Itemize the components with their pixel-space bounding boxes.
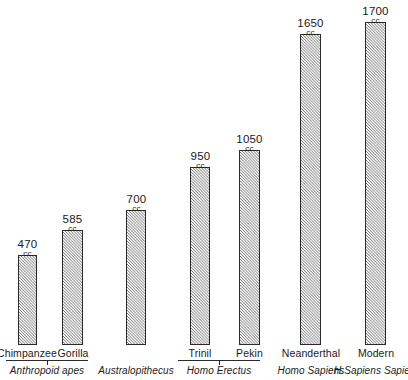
cranial-capacity-bar-chart: 470 cc 585 cc 700 cc 950 cc 1050 cc 1650… bbox=[0, 0, 408, 380]
axis-label-pekin: Pekin bbox=[229, 347, 270, 359]
bar-trinil bbox=[190, 167, 210, 345]
taxon-label-h-sapiens-sapiens: H.Sapiens Sapiens bbox=[334, 365, 408, 376]
taxon-label-homo-erectus: Homo Erectus bbox=[181, 365, 257, 376]
bar-chimpanzee bbox=[18, 255, 37, 345]
bar-value-neanderthal: 1650 cc bbox=[289, 17, 332, 37]
bar-australopithecus bbox=[126, 210, 146, 345]
axis-label-trinil: Trinil bbox=[180, 347, 220, 359]
bar-neanderthal bbox=[300, 34, 321, 345]
bar-value-unit: cc bbox=[52, 225, 93, 233]
axis-label-australopithecus: Australopithecus bbox=[96, 365, 176, 376]
axis-label-chimpanzee: Chimpanzee bbox=[0, 347, 58, 359]
bar-value-australopithecus: 700 cc bbox=[116, 193, 157, 213]
bar-value-unit: cc bbox=[7, 250, 48, 258]
bar-value-unit: cc bbox=[228, 145, 271, 153]
bar-value-unit: cc bbox=[354, 17, 397, 25]
bar-modern bbox=[365, 22, 386, 345]
bar-value-trinil: 950 cc bbox=[180, 150, 221, 170]
bar-gorilla bbox=[62, 230, 83, 345]
bar-value-unit: cc bbox=[180, 162, 221, 170]
bar-value-unit: cc bbox=[116, 205, 157, 213]
bar-pekin bbox=[239, 150, 260, 345]
bar-value-unit: cc bbox=[289, 29, 332, 37]
bar-value-pekin: 1050 cc bbox=[228, 133, 271, 153]
axis-label-gorilla: Gorilla bbox=[53, 347, 93, 359]
bar-value-chimpanzee: 470 cc bbox=[7, 238, 48, 258]
bar-value-modern: 1700 cc bbox=[354, 5, 397, 25]
axis-label-modern: Modern bbox=[349, 347, 403, 359]
axis-label-neanderthal: Neanderthal bbox=[273, 347, 349, 359]
bar-value-gorilla: 585 cc bbox=[52, 213, 93, 233]
taxon-label-anthropoid-apes: Anthropoid apes bbox=[7, 365, 87, 376]
